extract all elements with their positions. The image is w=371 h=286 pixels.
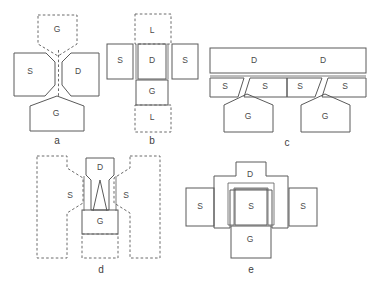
panel-b: L S D S G L b: [107, 14, 198, 146]
panel-c-label-gate-right: G: [322, 111, 329, 121]
panel-d-label-drain-top: D: [97, 162, 103, 172]
panel-d-channel-v-shape: [93, 180, 107, 211]
panel-d: D S S G d: [37, 156, 160, 275]
panel-c-caption: c: [285, 137, 290, 148]
panel-d-label-source-left: S: [67, 190, 73, 200]
panel-b-label-drain-center: D: [149, 55, 155, 65]
panel-e-label-source-center: S: [248, 201, 254, 211]
panel-e-label-drain-outer: D: [247, 169, 253, 179]
panel-c-label-source-4: S: [342, 81, 348, 91]
panel-d-body-left-shape: [37, 156, 83, 258]
device-layout-diagram: G S D G a L S D S G L b: [0, 0, 371, 286]
panel-d-caption: d: [98, 264, 104, 275]
panel-e: D S S S G e: [186, 162, 317, 275]
panel-a-label-source-left: S: [27, 66, 33, 76]
panel-a-gate-top-shape: [38, 15, 77, 56]
panel-a: G S D G a: [14, 15, 99, 146]
panel-a-label-drain-right: D: [75, 66, 81, 76]
panel-b-label-source-right: S: [182, 55, 188, 65]
panel-d-body-center-bottom-shape: [82, 234, 118, 258]
panel-d-body-right-shape: [114, 156, 160, 258]
panel-c-label-gate-left: G: [245, 111, 252, 121]
panel-e-label-source-left: S: [197, 201, 203, 211]
panel-c-label-source-1: S: [222, 81, 228, 91]
panel-c-label-source-3: S: [297, 81, 303, 91]
panel-e-label-source-right: S: [300, 201, 306, 211]
panel-d-label-source-right: S: [123, 190, 129, 200]
panel-a-label-gate-bottom: G: [53, 108, 60, 118]
figure-root: G S D G a L S D S G L b: [0, 0, 371, 286]
panel-d-label-gate-bottom: G: [97, 216, 104, 226]
panel-e-caption: e: [248, 264, 254, 275]
panel-c-label-drain-left: D: [251, 55, 257, 65]
panel-a-caption: a: [54, 135, 60, 146]
panel-a-label-gate-top: G: [54, 24, 61, 34]
panel-c-label-drain-right: D: [320, 55, 326, 65]
panel-a-source-left-shape: [14, 53, 55, 96]
panel-b-caption: b: [149, 135, 155, 146]
panel-b-label-layer-bottom: L: [150, 112, 155, 122]
panel-c-drain-bar-shape: [210, 48, 366, 73]
panel-b-label-gate-center: G: [149, 86, 156, 96]
panel-b-label-source-left: S: [117, 55, 123, 65]
panel-c: D D S S S S G G c: [210, 48, 366, 148]
panel-b-label-layer-top: L: [150, 25, 155, 35]
panel-c-source-3-shape: [287, 78, 322, 97]
panel-e-label-gate-bottom: G: [247, 234, 254, 244]
panel-c-label-source-2: S: [262, 81, 268, 91]
